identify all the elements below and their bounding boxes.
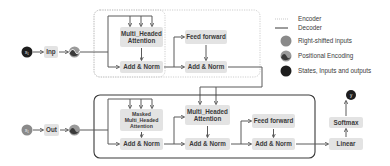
decoder-input-state: x₁: [22, 125, 33, 136]
legend-decoder-label: Decoder: [298, 24, 322, 31]
legend-positional-encoding-label: Positional Encoding: [298, 52, 354, 60]
softmax-label: Softmax: [334, 119, 359, 126]
encoder-input-state: x₁: [22, 47, 33, 58]
encoder-add-norm-1-label: Add & Norm: [123, 63, 160, 70]
decoder-add-norm-1-label: Add & Norm: [123, 140, 160, 147]
legend: Encoder Decoder Right-shifted inputs Pos…: [275, 15, 371, 77]
decoder-masked-attention-label-3: Attention: [130, 123, 153, 129]
decoder-cross-attention-label-1: Multi_Headed: [187, 108, 228, 115]
decoder-add-norm-3-label: Add & Norm: [255, 140, 292, 147]
legend-states-label: States, Inputs and outputs: [298, 67, 371, 75]
encoder-attention-label-2: Attention: [128, 37, 156, 44]
legend-encoder-label: Encoder: [298, 15, 321, 22]
output-state: y: [346, 90, 356, 100]
black-circle-icon: [281, 66, 292, 77]
encoder-feed-forward-label: Feed forward: [186, 33, 226, 40]
decoder-input-symbol: x₁: [25, 128, 29, 133]
gray-circle-icon: [281, 36, 292, 47]
decoder-positional-encoding: [69, 125, 80, 136]
decoder-input-label: Out: [46, 126, 58, 133]
decoder-cross-attention-label-2: Attention: [194, 115, 222, 122]
encoder-input-symbol: x₁: [25, 50, 29, 55]
encoder-add-norm-2-label: Add & Norm: [188, 63, 225, 70]
linear-label: Linear: [337, 140, 356, 147]
decoder-feed-forward-label: Feed forward: [254, 117, 294, 124]
transformer-diagram: x₁ Inp Multi_Headed Attention Add & Norm…: [0, 0, 390, 166]
encoder-positional-encoding: [69, 47, 80, 58]
wave-circle-icon: [281, 51, 292, 62]
encoder-attention-label-1: Multi_Headed: [121, 30, 162, 37]
encoder-input-label: Inp: [46, 48, 56, 56]
legend-right-shifted-label: Right-shifted inputs: [298, 37, 352, 45]
decoder-add-norm-2-label: Add & Norm: [189, 140, 226, 147]
